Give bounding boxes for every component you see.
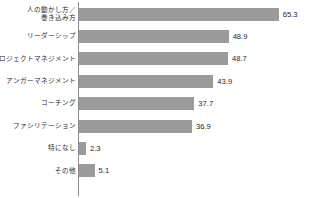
category-label-line: その他 xyxy=(55,167,76,175)
category-label: 人の動かし方／巻き込み方 xyxy=(0,3,76,25)
category-label-line: リーダーシップ xyxy=(27,32,76,40)
category-label-line: 人の動かし方／ xyxy=(27,6,76,14)
bar-and-value: 37.7 xyxy=(79,93,213,115)
bar-value-label: 48.9 xyxy=(233,32,248,41)
category-label: アンガーマネジメント xyxy=(0,70,76,92)
bar-row: ファシリテーション36.9 xyxy=(0,115,315,137)
bar-row: 人の動かし方／巻き込み方65.3 xyxy=(0,3,315,25)
category-label: プロジェクトマネジメント xyxy=(0,48,76,70)
bar xyxy=(79,75,213,88)
bar-and-value: 36.9 xyxy=(79,115,211,137)
bar-value-label: 37.7 xyxy=(198,99,213,108)
category-label-line: コーチング xyxy=(41,99,76,107)
bar xyxy=(79,30,229,43)
bar xyxy=(79,97,194,110)
category-label: ファシリテーション xyxy=(0,115,76,137)
bar-value-label: 36.9 xyxy=(196,122,211,131)
bar-value-label: 2.3 xyxy=(90,144,101,153)
bar-and-value: 48.7 xyxy=(79,48,247,70)
category-label-line: ファシリテーション xyxy=(13,122,76,130)
category-label: その他 xyxy=(0,160,76,182)
bar xyxy=(79,142,86,155)
bar-row: 特になし2.3 xyxy=(0,137,315,159)
plot-area: 人の動かし方／巻き込み方65.3リーダーシップ48.9プロジェクトマネジメント4… xyxy=(0,0,315,198)
bar-row: アンガーマネジメント43.9 xyxy=(0,70,315,92)
bar-row: プロジェクトマネジメント48.7 xyxy=(0,48,315,70)
bar-value-label: 48.7 xyxy=(232,54,247,63)
bar xyxy=(79,120,192,133)
category-label-line: プロジェクトマネジメント xyxy=(0,55,76,63)
bar-and-value: 43.9 xyxy=(79,70,232,92)
bar xyxy=(79,164,95,177)
bar-and-value: 65.3 xyxy=(79,3,298,25)
bar-row: その他5.1 xyxy=(0,160,315,182)
bar-and-value: 48.9 xyxy=(79,25,247,47)
category-label: 特になし xyxy=(0,137,76,159)
bar-value-label: 65.3 xyxy=(283,10,298,19)
bar-value-label: 5.1 xyxy=(99,166,110,175)
category-label-line: 特になし xyxy=(48,144,76,152)
bar-and-value: 2.3 xyxy=(79,137,101,159)
category-label: リーダーシップ xyxy=(0,25,76,47)
bar-row: リーダーシップ48.9 xyxy=(0,25,315,47)
bar xyxy=(79,8,279,21)
bar-and-value: 5.1 xyxy=(79,160,109,182)
bar-row: コーチング37.7 xyxy=(0,93,315,115)
category-label-line: アンガーマネジメント xyxy=(6,77,76,85)
category-label: コーチング xyxy=(0,93,76,115)
horizontal-bar-chart: 人の動かし方／巻き込み方65.3リーダーシップ48.9プロジェクトマネジメント4… xyxy=(0,0,315,198)
bar xyxy=(79,52,228,65)
category-label-line: 巻き込み方 xyxy=(41,14,76,22)
bar-value-label: 43.9 xyxy=(217,77,232,86)
